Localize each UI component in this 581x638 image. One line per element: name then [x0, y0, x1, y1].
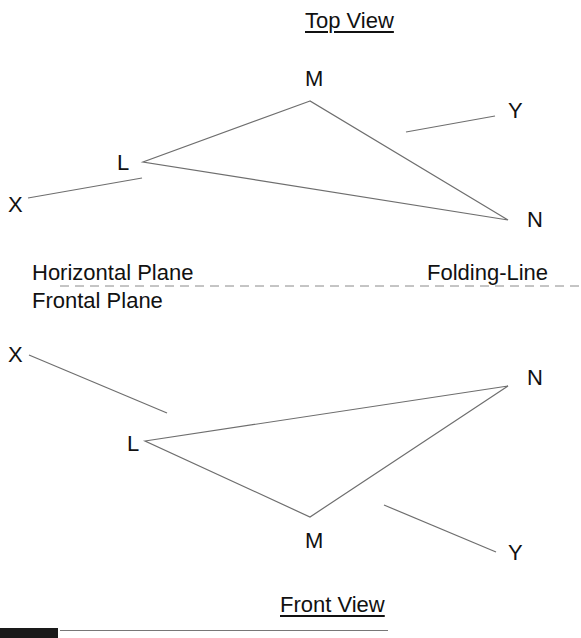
front-point-m-label: M: [305, 530, 323, 552]
top-view-title: Top View: [305, 10, 394, 32]
top-view-triangle: [143, 101, 508, 220]
front-point-n-label: N: [527, 367, 543, 389]
horizontal-plane-label: Horizontal Plane: [32, 262, 193, 284]
front-point-x-label: X: [8, 344, 23, 366]
front-view-y-line: [384, 505, 496, 552]
top-view-y-line: [406, 116, 495, 132]
top-point-y-label: Y: [508, 100, 523, 122]
top-point-x-label: X: [8, 194, 23, 216]
top-view-x-line: [28, 178, 142, 198]
front-view-title: Front View: [280, 594, 385, 616]
front-view-triangle: [145, 386, 508, 517]
frontal-plane-label: Frontal Plane: [32, 290, 163, 312]
projection-diagram: [0, 0, 581, 638]
top-point-l-label: L: [117, 152, 129, 174]
bottom-rule: [60, 630, 388, 631]
bottom-dark-bar: [0, 628, 58, 638]
front-view-x-line: [29, 355, 167, 413]
folding-line-label: Folding-Line: [427, 262, 548, 284]
top-point-m-label: M: [305, 68, 323, 90]
front-point-y-label: Y: [508, 542, 523, 564]
top-point-n-label: N: [527, 209, 543, 231]
front-point-l-label: L: [127, 433, 139, 455]
